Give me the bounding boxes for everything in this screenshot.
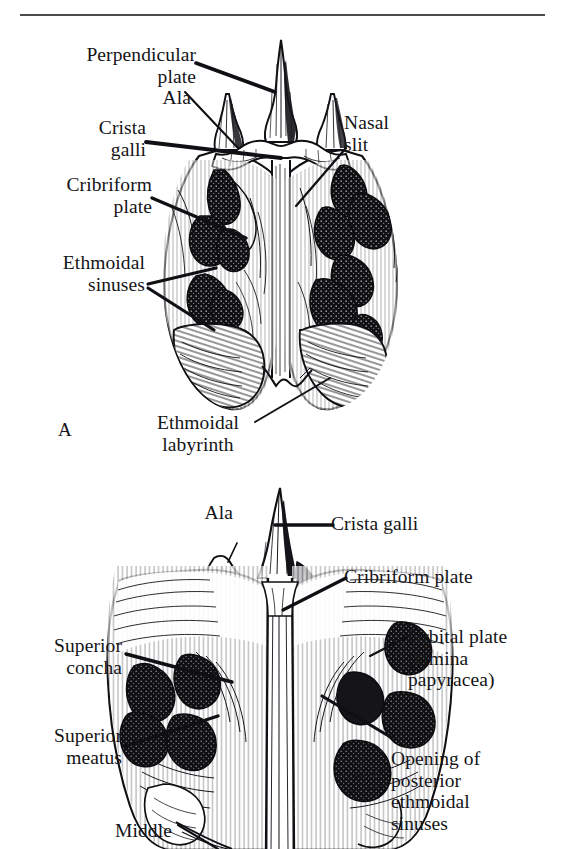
label-cribriform-plate-b: Cribriform plate [344, 566, 559, 588]
label-superior-concha: Superior concha [0, 635, 122, 678]
header-rule [20, 14, 545, 16]
figure-letter-a: A [58, 420, 72, 440]
label-crista-galli-a: Crista galli [0, 117, 146, 160]
label-middle: Middle [32, 820, 172, 842]
label-superior-meatus: Superior meatus [0, 725, 122, 768]
label-opening-posterior-ethmoidal-sinuses: Opening of posterior ethmoidal sinuses [391, 748, 559, 834]
illustration-page: Perpendicular plate Ala Crista galli Cri… [0, 0, 561, 849]
label-ala-a: Ala [71, 87, 191, 109]
figure-a: Perpendicular plate Ala Crista galli Cri… [0, 30, 561, 450]
label-nasal-slit: Nasal slit [344, 112, 484, 155]
label-crista-galli-b: Crista galli [331, 513, 531, 535]
label-perpendicular-plate: Perpendicular plate [0, 44, 196, 87]
label-ethmoidal-labyrinth: Ethmoidal labyrinth [118, 412, 278, 455]
figure-b: Ala Crista galli Cribriform plate Orbita… [0, 470, 561, 849]
label-cribriform-plate-a: Cribriform plate [0, 174, 152, 217]
label-orbital-plate: Orbital plate (lamina papyracea) [408, 626, 561, 691]
label-ala-b: Ala [113, 502, 233, 524]
label-ethmoidal-sinuses: Ethmoidal sinuses [0, 252, 145, 295]
